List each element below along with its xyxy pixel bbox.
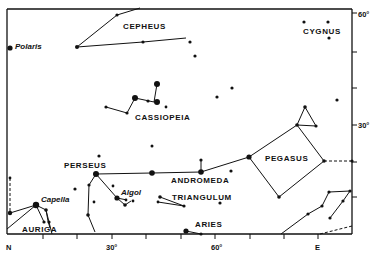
capella-star — [33, 202, 39, 208]
star — [246, 154, 251, 159]
star — [9, 177, 12, 180]
label-capella: Capella — [41, 195, 70, 204]
x-label-n: N — [6, 243, 11, 252]
horizon-dashed-line — [320, 226, 352, 234]
star — [182, 204, 185, 207]
star — [123, 203, 127, 207]
x-label-30: 30° — [106, 243, 117, 252]
cepheus-line — [77, 38, 186, 47]
star — [132, 95, 138, 101]
star — [199, 232, 202, 235]
auriga-line — [10, 205, 36, 213]
polaris-star — [7, 45, 12, 50]
star — [306, 212, 309, 215]
star — [341, 199, 344, 202]
star — [322, 159, 326, 163]
star — [75, 45, 79, 49]
star — [132, 200, 135, 203]
y-label-30: 30° — [358, 121, 369, 130]
star — [327, 36, 330, 39]
star — [125, 199, 128, 202]
star — [303, 105, 307, 109]
y-label-60: 60° — [358, 10, 369, 19]
label-cepheus: CEPHEUS — [123, 22, 166, 31]
star — [47, 220, 50, 223]
star — [199, 158, 202, 161]
label-polaris: Polaris — [15, 42, 42, 51]
star — [335, 98, 338, 101]
star — [97, 154, 100, 157]
star — [104, 105, 107, 108]
star — [125, 111, 128, 114]
label-cassiopeia: CASSIOPEIA — [135, 113, 190, 122]
star — [350, 159, 353, 162]
star — [314, 124, 317, 127]
star — [277, 195, 281, 199]
label-algol: Algol — [120, 188, 142, 197]
pisces-line — [281, 191, 350, 234]
cassiopeia-line — [106, 84, 157, 113]
star — [93, 201, 96, 204]
star — [230, 86, 233, 89]
pisces-line — [330, 191, 350, 218]
star — [193, 54, 196, 57]
star — [115, 13, 118, 16]
label-perseus: PERSEUS — [64, 161, 106, 170]
star — [328, 216, 331, 219]
pegasus-line — [297, 107, 316, 126]
star — [154, 81, 160, 87]
label-auriga: AURIGA — [22, 225, 57, 234]
star — [93, 171, 99, 177]
star — [183, 228, 188, 233]
star — [112, 185, 115, 188]
andromeda-line — [96, 157, 249, 174]
star — [158, 195, 162, 199]
label-aries: ARIES — [195, 220, 223, 229]
star — [295, 123, 299, 127]
star — [165, 106, 168, 109]
label-andromeda: ANDROMEDA — [171, 176, 229, 185]
star — [151, 145, 154, 148]
star — [320, 204, 323, 207]
x-label-60: 60° — [211, 243, 222, 252]
star — [73, 187, 76, 190]
algol-star — [114, 195, 119, 200]
star — [302, 20, 305, 23]
star — [8, 211, 12, 215]
star — [348, 189, 351, 192]
x-label-e: E — [315, 243, 320, 252]
star — [146, 99, 149, 102]
star — [229, 169, 232, 172]
star — [44, 208, 48, 212]
star — [188, 40, 191, 43]
star — [86, 213, 90, 217]
star-map: CEPHEUS CYGNUS CASSIOPEIA PERSEUS ANDROM… — [0, 0, 376, 259]
star — [154, 99, 160, 105]
star — [326, 20, 329, 23]
star — [149, 170, 155, 176]
label-pegasus: PEGASUS — [265, 154, 308, 163]
star — [157, 201, 160, 204]
star — [327, 190, 330, 193]
label-cygnus: CYGNUS — [303, 27, 341, 36]
star — [42, 220, 45, 223]
star — [87, 183, 90, 186]
star — [198, 169, 204, 175]
star — [215, 95, 218, 98]
star — [141, 40, 144, 43]
label-triangulum: TRIANGULUM — [172, 193, 232, 202]
